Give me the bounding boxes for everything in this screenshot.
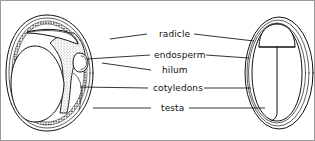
leader-radicle-left (110, 34, 147, 39)
left-hilum (73, 53, 88, 72)
leader-radicle-right (194, 34, 254, 41)
leader-endosperm-right (206, 55, 249, 58)
right-cotyledon-divider (271, 47, 277, 121)
leader-hilum-left (102, 63, 151, 70)
leader-endosperm-left (87, 55, 150, 59)
leader-cotyledons-left (80, 87, 148, 88)
seed-diagram-canvas (1, 1, 315, 141)
right-radicle (259, 24, 295, 47)
label-endosperm: endosperm (154, 51, 206, 60)
label-testa: testa (161, 104, 184, 113)
right-seed-group (245, 17, 313, 129)
label-cotyledons: cotyledons (153, 84, 203, 93)
label-radicle: radicle (159, 30, 190, 39)
left-seed-group (6, 15, 93, 131)
label-hilum: hilum (162, 66, 188, 75)
seed-diagram-figure: radicle endosperm hilum cotyledons testa (0, 0, 315, 141)
left-cotyledons (11, 46, 64, 122)
